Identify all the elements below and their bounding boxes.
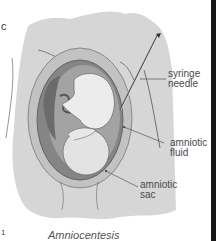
leader-fluid-dot [123,126,125,128]
label-line: needle [168,79,200,89]
label-amniotic-fluid: amniotic fluid [170,138,207,158]
leader-sac-dot [105,170,107,172]
left-body-contour [6,58,13,138]
label-line: fluid [170,148,207,158]
panel-letter: c [1,20,7,32]
label-amniotic-sac: amniotic sac [140,180,177,200]
label-syringe-needle: syringe needle [168,69,200,89]
page-edge-bar [211,0,216,241]
label-line: sac [140,190,177,200]
amniocentesis-illustration [0,0,216,241]
bottom-mark: 1 [1,228,5,237]
figure-caption: Amniocentesis [48,229,120,241]
